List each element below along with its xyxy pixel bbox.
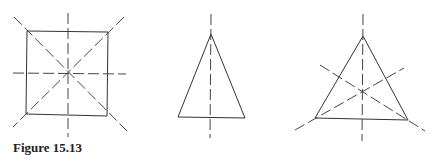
square-shape bbox=[13, 13, 127, 137]
figure-15-13: Figure 15.13 bbox=[0, 0, 438, 157]
equilateral-triangle-shape bbox=[295, 14, 425, 141]
isosceles-triangle-shape bbox=[178, 14, 245, 138]
equilateral-axis-vertical bbox=[362, 14, 363, 141]
symmetry-diagram bbox=[0, 0, 438, 157]
isosceles-axis bbox=[210, 14, 211, 138]
equilateral-axis-right bbox=[320, 65, 425, 131]
equilateral-axis-left bbox=[295, 68, 404, 130]
figure-caption: Figure 15.13 bbox=[13, 140, 82, 156]
